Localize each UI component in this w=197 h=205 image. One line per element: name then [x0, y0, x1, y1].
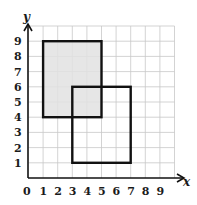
coordinate-plane: x y 0123456789 123456789: [0, 0, 197, 205]
y-tick-label: 8: [14, 50, 22, 63]
y-axis-label: y: [22, 10, 31, 24]
y-tick-label: 4: [14, 111, 22, 124]
x-tick-label: 8: [142, 185, 150, 198]
x-tick-label: 9: [156, 185, 164, 198]
y-tick-label: 6: [14, 81, 22, 94]
y-tick-label: 3: [14, 126, 22, 139]
y-tick-label: 2: [14, 142, 22, 155]
x-tick-labels: 0123456789: [23, 185, 164, 198]
y-tick-label: 9: [14, 35, 22, 48]
y-tick-label: 1: [14, 157, 22, 170]
x-tick-label: 5: [98, 185, 106, 198]
y-tick-labels: 123456789: [14, 35, 22, 170]
x-tick-label: 0: [23, 185, 31, 198]
y-tick-label: 7: [14, 66, 22, 79]
x-tick-label: 2: [54, 185, 62, 198]
y-tick-label: 5: [14, 96, 22, 109]
x-tick-label: 3: [69, 185, 77, 198]
x-tick-label: 1: [40, 185, 48, 198]
x-axis-label: x: [182, 175, 191, 189]
x-tick-label: 7: [127, 185, 135, 198]
x-tick-label: 6: [113, 185, 121, 198]
x-tick-label: 4: [83, 185, 91, 198]
